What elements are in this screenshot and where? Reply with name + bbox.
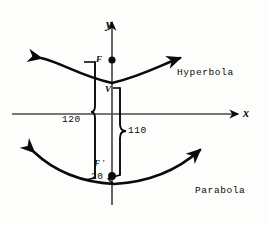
parabola-focus-label: F ' — [94, 159, 105, 168]
parabola-curve — [34, 150, 200, 184]
y-axis-label: y — [106, 18, 111, 30]
left-dimension-label: 120 — [62, 115, 81, 125]
bottom-dimension-label: 20 — [91, 172, 103, 182]
parabola-label: Parabola — [195, 186, 245, 196]
parabola-focus-dot — [108, 172, 116, 180]
right-dimension-label: 110 — [128, 126, 147, 136]
hyperbola-label: Hyperbola — [177, 68, 234, 78]
hyperbola-vertex-label: V — [105, 85, 111, 94]
x-axis-label: x — [243, 107, 249, 119]
right-dimension-brace — [120, 88, 126, 175]
math-figure: y x F V F ' 120 110 20 Hyperbola Parabol… — [0, 0, 270, 225]
hyperbola-focus-label: F — [96, 55, 102, 64]
hyperbola-focus-dot — [108, 56, 115, 63]
